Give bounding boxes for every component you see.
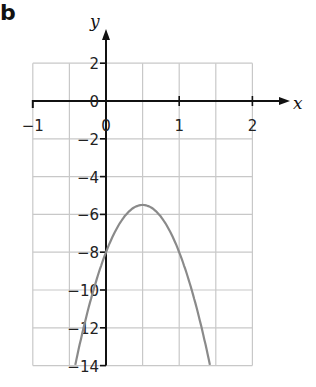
svg-text:−14: −14 <box>67 358 99 376</box>
svg-text:0: 0 <box>101 117 111 135</box>
y-axis-label: y <box>89 11 100 31</box>
x-axis-label: x <box>293 93 303 113</box>
chart-plot: −101220−2−4−6−8−10−12−14 x y <box>0 0 316 387</box>
grid-lines <box>33 63 253 365</box>
svg-text:−6: −6 <box>77 206 99 224</box>
svg-text:−4: −4 <box>77 169 99 187</box>
svg-text:2: 2 <box>248 117 258 135</box>
svg-text:0: 0 <box>89 93 99 111</box>
svg-text:1: 1 <box>174 117 184 135</box>
svg-text:−8: −8 <box>77 244 99 262</box>
axes <box>33 29 290 366</box>
svg-text:2: 2 <box>89 55 99 73</box>
svg-text:−2: −2 <box>77 131 99 149</box>
svg-text:−1: −1 <box>22 117 44 135</box>
